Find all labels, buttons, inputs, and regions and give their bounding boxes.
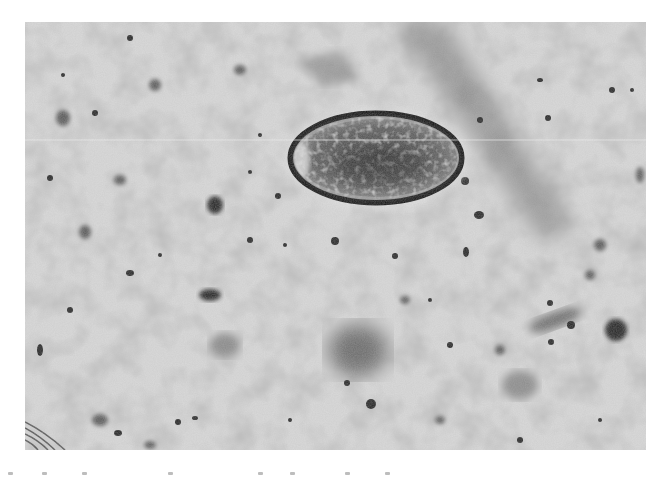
caption-glyph-fragment bbox=[82, 472, 87, 475]
micrograph-image bbox=[25, 22, 646, 450]
caption-glyph-fragment bbox=[345, 472, 350, 475]
caption-glyph-fragment bbox=[8, 472, 13, 475]
caption-remnant bbox=[0, 468, 420, 477]
caption-glyph-fragment bbox=[168, 472, 173, 475]
caption-glyph-fragment bbox=[385, 472, 390, 475]
caption-glyph-fragment bbox=[42, 472, 47, 475]
figure-page bbox=[0, 0, 666, 477]
caption-glyph-fragment bbox=[290, 472, 295, 475]
caption-glyph-fragment bbox=[258, 472, 263, 475]
